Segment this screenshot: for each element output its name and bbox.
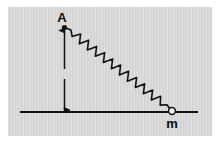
mass-marker-circle bbox=[169, 108, 176, 115]
diagram-canvas: A m bbox=[0, 0, 216, 143]
label-point-a: A bbox=[57, 10, 67, 25]
figure-root: A m bbox=[0, 0, 216, 143]
diagram-panel-background bbox=[8, 7, 212, 136]
anchor-point-dot bbox=[62, 25, 67, 30]
label-mass-m: m bbox=[166, 116, 178, 131]
